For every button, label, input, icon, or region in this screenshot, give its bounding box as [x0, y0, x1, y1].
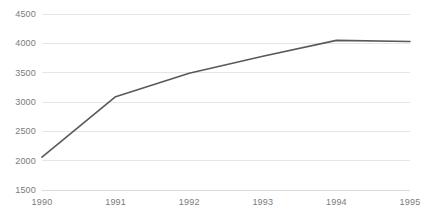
y-axis-tick-label: 4000	[15, 38, 36, 48]
y-axis-tick-label: 4500	[15, 9, 36, 19]
data-series-group	[42, 40, 410, 157]
chart-plot-area	[0, 0, 421, 222]
y-axis-tick-label: 3500	[15, 68, 36, 78]
y-axis-tick-label: 1500	[15, 185, 36, 195]
data-line	[42, 40, 410, 157]
x-axis-tick-label: 1995	[400, 197, 421, 207]
x-axis-tick-label: 1992	[179, 197, 200, 207]
y-axis-tick-label: 3000	[15, 97, 36, 107]
x-axis-tick-label: 1993	[252, 197, 273, 207]
line-chart: 1500200025003000350040004500 19901991199…	[0, 0, 421, 222]
x-axis-tick-label: 1994	[326, 197, 347, 207]
x-axis-tick-label: 1990	[32, 197, 53, 207]
y-axis-tick-label: 2000	[15, 156, 36, 166]
x-axis-tick-label: 1991	[105, 197, 126, 207]
y-axis-tick-label: 2500	[15, 126, 36, 136]
